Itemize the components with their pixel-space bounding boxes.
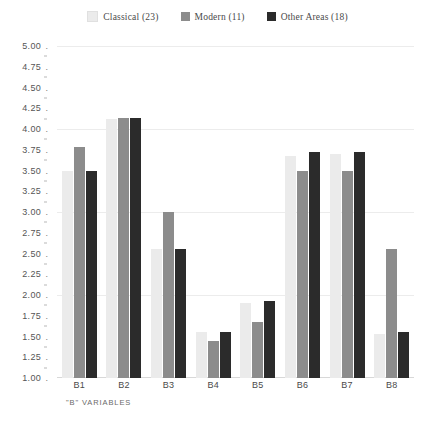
bar[interactable]: [130, 118, 141, 378]
y-axis-tick-mark: .: [45, 125, 48, 134]
y-axis-tick-mark: .: [45, 208, 48, 217]
legend-item[interactable]: Classical (23): [87, 11, 158, 22]
bar[interactable]: [220, 332, 231, 378]
bar-group: [102, 46, 147, 378]
y-axis-tick-label: 4.50: [22, 83, 41, 93]
x-axis-tick-label: B1: [74, 380, 86, 390]
y-axis-tick-mark: .: [45, 353, 48, 362]
legend-label: Modern (11): [195, 12, 245, 22]
legend-item[interactable]: Modern (11): [181, 12, 245, 22]
legend-label: Other Areas (18): [281, 12, 348, 22]
bar[interactable]: [297, 171, 308, 379]
bar[interactable]: [252, 322, 263, 378]
bar[interactable]: [118, 118, 129, 378]
bar[interactable]: [374, 334, 385, 378]
y-axis-tick-label: 5.00: [22, 41, 41, 51]
y-axis-minor-tick: [44, 201, 47, 202]
y-axis-tick-label: 1.25: [22, 352, 41, 362]
bar-group: [369, 46, 414, 378]
bar[interactable]: [398, 332, 409, 378]
bar[interactable]: [151, 249, 162, 378]
plot-area: [57, 46, 414, 378]
bar[interactable]: [354, 152, 365, 378]
x-axis-tick-label: B8: [386, 380, 398, 390]
y-axis-minor-tick: [44, 118, 47, 119]
y-axis-tick-mark: .: [45, 187, 48, 196]
y-axis-tick-label: 4.75: [22, 62, 41, 72]
bar[interactable]: [240, 303, 251, 378]
bar[interactable]: [264, 301, 275, 378]
x-axis-tick-label: B4: [207, 380, 219, 390]
x-axis-tick-label: B7: [341, 380, 353, 390]
y-axis-minor-tick: [44, 346, 47, 347]
y-axis-tick-label: 2.00: [22, 290, 41, 300]
bar-group: [325, 46, 370, 378]
y-axis-tick-mark: .: [45, 291, 48, 300]
bar[interactable]: [386, 249, 397, 378]
bar[interactable]: [330, 154, 341, 378]
y-axis-tick-mark: .: [45, 104, 48, 113]
legend-swatch-icon: [87, 11, 98, 22]
y-axis-tick-label: 3.75: [22, 145, 41, 155]
bar-group: [57, 46, 102, 378]
y-axis-tick-label: 4.25: [22, 103, 41, 113]
bar[interactable]: [208, 341, 219, 378]
y-axis-tick-label: 4.00: [22, 124, 41, 134]
y-axis-tick-mark: .: [45, 166, 48, 175]
bar[interactable]: [196, 332, 207, 378]
bar-chart: Classical (23)Modern (11)Other Areas (18…: [0, 0, 435, 425]
bar[interactable]: [309, 152, 320, 378]
legend-label: Classical (23): [103, 12, 158, 22]
bar-group: [146, 46, 191, 378]
y-axis-tick-label: 3.00: [22, 207, 41, 217]
y-axis-minor-tick: [44, 263, 47, 264]
y-axis-tick-label: 1.50: [22, 332, 41, 342]
y-axis-tick-mark: .: [45, 42, 48, 51]
y-axis-minor-tick: [44, 222, 47, 223]
y-axis-tick-mark: .: [45, 332, 48, 341]
y-axis-tick-mark: .: [45, 145, 48, 154]
y-axis-minor-tick: [44, 56, 47, 57]
y-axis-minor-tick: [44, 367, 47, 368]
y-axis-tick-mark: .: [45, 311, 48, 320]
legend-swatch-icon: [181, 12, 190, 21]
bar-group: [280, 46, 325, 378]
legend-item[interactable]: Other Areas (18): [267, 12, 348, 22]
bar[interactable]: [62, 171, 73, 379]
y-axis-minor-tick: [44, 284, 47, 285]
y-axis-tick-mark: .: [45, 83, 48, 92]
y-axis-minor-tick: [44, 243, 47, 244]
bar-group: [191, 46, 236, 378]
y-axis-tick-label: 2.25: [22, 269, 41, 279]
bar[interactable]: [74, 147, 85, 378]
x-axis-tick-label: B2: [118, 380, 130, 390]
y-axis-minor-tick: [44, 305, 47, 306]
y-axis-minor-tick: [44, 160, 47, 161]
y-axis-minor-tick: [44, 77, 47, 78]
x-axis-tick-label: B5: [252, 380, 264, 390]
y-axis-tick-label: 2.75: [22, 228, 41, 238]
bar-group: [236, 46, 281, 378]
y-axis-tick-label: 2.50: [22, 249, 41, 259]
bar[interactable]: [285, 156, 296, 378]
chart-legend: Classical (23)Modern (11)Other Areas (18…: [0, 11, 435, 22]
bar[interactable]: [163, 212, 174, 378]
y-axis-minor-tick: [44, 97, 47, 98]
y-axis-tick-label: 3.25: [22, 186, 41, 196]
y-axis-tick-mark: .: [45, 62, 48, 71]
y-axis-minor-tick: [44, 180, 47, 181]
y-axis-minor-tick: [44, 139, 47, 140]
y-axis-tick-mark: .: [45, 249, 48, 258]
x-axis-tick-label: B6: [297, 380, 309, 390]
bar[interactable]: [86, 171, 97, 379]
y-axis: 5.00.4.75.4.50.4.25.4.00.3.75.3.50.3.25.…: [0, 46, 57, 378]
bar[interactable]: [175, 249, 186, 378]
legend-swatch-icon: [267, 12, 276, 21]
y-axis-tick-mark: .: [45, 270, 48, 279]
x-axis: B1B2B3B4B5B6B7B8: [57, 380, 414, 398]
y-axis-tick-mark: .: [45, 374, 48, 383]
bar[interactable]: [106, 119, 117, 378]
y-axis-tick-label: 3.50: [22, 166, 41, 176]
bar[interactable]: [342, 171, 353, 379]
y-axis-tick-label: 1.00: [22, 373, 41, 383]
